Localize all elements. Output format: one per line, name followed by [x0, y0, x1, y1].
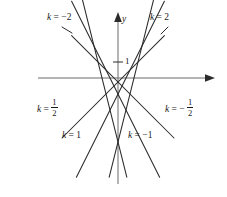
fraction-neg-one-half-denominator: 2: [187, 109, 193, 118]
label-k-one-half: k = 1 2: [37, 98, 58, 117]
label-k-neg-one-half-sign: −: [179, 104, 184, 114]
label-k-neg-1-eq: =: [135, 130, 140, 140]
label-k-neg-2-lhs: k: [47, 12, 51, 22]
label-k-neg-2-value: −2: [61, 12, 71, 22]
y-axis-arrowhead: [114, 12, 122, 22]
envelope-of-lines-figure: y 1 k = −2 k = 2 k = 1 2 k = − 1 2 k: [0, 0, 227, 197]
label-k-neg-one-half: k = − 1 2: [165, 98, 193, 117]
label-k-pos-2-eq: =: [157, 12, 162, 22]
fraction-neg-one-half-numerator: 1: [187, 98, 193, 107]
fraction-one-half: 1 2: [51, 98, 57, 117]
fraction-one-half-denominator: 2: [51, 109, 57, 118]
annotation-leaders: [62, 27, 168, 34]
leader-k-neg2: [62, 27, 72, 33]
label-k-neg-2: k = −2: [47, 13, 71, 23]
label-k-pos-1-value: 1: [76, 130, 81, 140]
label-k-pos-2-lhs: k: [150, 12, 154, 22]
line-k-neg2: [72, 0, 127, 177]
y-axis-label: y: [122, 14, 126, 24]
fraction-one-half-numerator: 1: [51, 98, 57, 107]
label-k-neg-one-half-lhs: k: [165, 104, 169, 114]
y-axis-tick-label-1: 1: [125, 56, 130, 66]
line-k-pos2: [109, 0, 164, 177]
label-k-neg-2-eq: =: [54, 12, 59, 22]
leader-k-pos2: [161, 27, 168, 34]
label-k-pos-2: k = 2: [150, 13, 169, 23]
label-k-pos-2-value: 2: [164, 12, 169, 22]
label-k-neg-1-lhs: k: [128, 130, 132, 140]
x-axis-arrowhead: [205, 74, 215, 82]
label-k-neg-one-half-eq: =: [172, 104, 177, 114]
label-k-pos-1-lhs: k: [62, 130, 66, 140]
label-k-neg-1-value: −1: [142, 130, 152, 140]
label-k-neg-1: k = −1: [128, 131, 152, 141]
fraction-neg-one-half: 1 2: [187, 98, 193, 117]
label-k-pos-1: k = 1: [62, 131, 81, 141]
label-k-one-half-eq: =: [44, 104, 49, 114]
label-k-pos-1-eq: =: [69, 130, 74, 140]
label-k-one-half-lhs: k: [37, 104, 41, 114]
